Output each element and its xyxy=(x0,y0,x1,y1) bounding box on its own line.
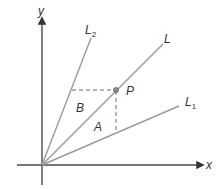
point-p-label: P xyxy=(126,84,134,98)
region-a-label: A xyxy=(93,120,102,134)
line-l xyxy=(42,44,163,165)
line-l-label: L xyxy=(164,32,171,46)
y-axis-label: y xyxy=(37,4,45,18)
diagram-canvas: y x L2 L L1 P B A xyxy=(0,0,217,189)
line-l1 xyxy=(42,106,179,165)
region-b-label: B xyxy=(76,101,84,115)
line-l1-label: L1 xyxy=(185,95,197,111)
line-l2-label: L2 xyxy=(85,23,97,39)
point-p-marker xyxy=(113,87,118,92)
x-axis-label: x xyxy=(205,158,213,172)
